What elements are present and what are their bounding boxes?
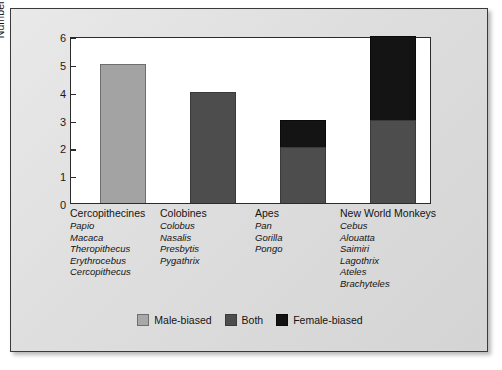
genus-name: Pygathrix bbox=[160, 255, 280, 267]
category-title: New World Monkeys bbox=[340, 207, 460, 219]
legend-item-both: Both bbox=[225, 314, 264, 326]
y-axis-title: Number of Genera bbox=[0, 0, 6, 64]
legend-swatch-icon bbox=[137, 314, 149, 326]
bar-segment-both bbox=[370, 120, 416, 204]
genus-name: Alouatta bbox=[340, 232, 460, 244]
category-column-new-world-monkeys: New World MonkeysCebusAlouattaSaimiriLag… bbox=[340, 207, 460, 290]
y-tick-label-0: 0 bbox=[47, 199, 71, 211]
bar-segment-both bbox=[190, 92, 236, 203]
plot-area: 0123456 bbox=[70, 37, 431, 204]
bar-segment-female-biased bbox=[280, 120, 326, 148]
y-tick-mark-4 bbox=[71, 94, 76, 95]
category-labels: CercopithecinesPapioMacacaTheropithecusE… bbox=[70, 207, 470, 312]
legend-swatch-icon bbox=[276, 314, 288, 326]
y-tick-label-4: 4 bbox=[47, 88, 71, 100]
bar-new-world-monkeys bbox=[370, 36, 416, 203]
legend-swatch-icon bbox=[225, 314, 237, 326]
genus-name: Cebus bbox=[340, 220, 460, 232]
plot-inner bbox=[71, 38, 430, 203]
y-tick-mark-5 bbox=[71, 66, 76, 67]
bar-cercopithecines bbox=[100, 64, 146, 203]
bar-apes bbox=[280, 120, 326, 203]
legend-item-female-biased: Female-biased bbox=[276, 314, 362, 326]
bar-segment-both bbox=[280, 147, 326, 203]
y-tick-mark-2 bbox=[71, 149, 76, 150]
genus-name: Cercopithecus bbox=[70, 266, 190, 278]
y-tick-label-3: 3 bbox=[47, 116, 71, 128]
figure-card: 0123456 Number of Genera Cercopithecines… bbox=[10, 8, 488, 352]
y-tick-label-5: 5 bbox=[47, 60, 71, 72]
bar-segment-female-biased bbox=[370, 36, 416, 120]
y-tick-label-2: 2 bbox=[47, 143, 71, 155]
legend-label: Male-biased bbox=[154, 314, 211, 326]
y-tick-mark-3 bbox=[71, 122, 76, 123]
legend-label: Both bbox=[242, 314, 264, 326]
legend-label: Female-biased bbox=[293, 314, 362, 326]
bar-segment-male-biased bbox=[100, 64, 146, 203]
bar-colobines bbox=[190, 92, 236, 203]
genus-name: Lagothrix bbox=[340, 255, 460, 267]
y-tick-label-1: 1 bbox=[47, 171, 71, 183]
y-tick-label-6: 6 bbox=[47, 32, 71, 44]
chart-legend: Male-biasedBothFemale-biased bbox=[11, 314, 489, 326]
genus-name: Ateles bbox=[340, 266, 460, 278]
y-tick-mark-6 bbox=[71, 38, 76, 39]
genus-name: Saimiri bbox=[340, 243, 460, 255]
genus-name: Brachyteles bbox=[340, 278, 460, 290]
legend-item-male-biased: Male-biased bbox=[137, 314, 211, 326]
y-tick-mark-1 bbox=[71, 177, 76, 178]
